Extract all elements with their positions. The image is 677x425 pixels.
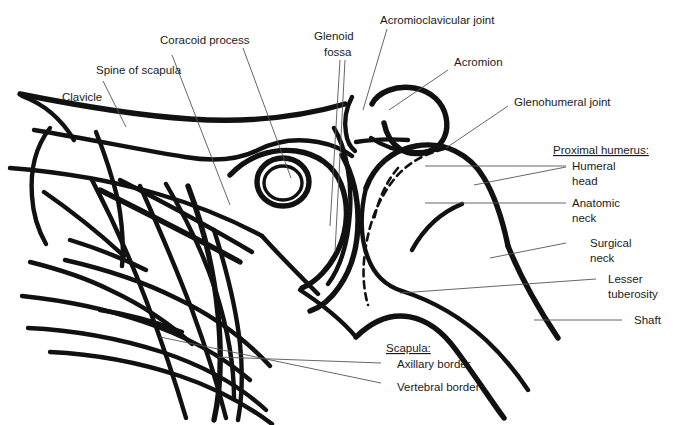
lesser-tuberosity-ridge [412, 204, 462, 250]
bone-outlines [10, 87, 558, 424]
label-glenohumeral-joint: Glenohumeral joint [514, 96, 611, 108]
leader-surgical-neck [490, 243, 566, 258]
label-lesser-tuberosity-line1: Lesser [608, 273, 643, 285]
label-shaft: Shaft [634, 314, 662, 326]
leader-vertebral-border [160, 337, 381, 383]
thoracic-outline-left-curve [32, 128, 50, 244]
label-scapula-heading: Scapula: [386, 342, 431, 354]
humeral-medial-shaft [402, 291, 528, 390]
label-anatomic-neck-line2: neck [572, 212, 597, 224]
scapula-body-lateral-sweep [262, 236, 318, 294]
ac-joint-lateral-clavicle [345, 97, 355, 151]
acromion-spine-continuation [356, 139, 408, 142]
label-clavicle: Clavicle [62, 91, 102, 103]
label-spine-of-scapula: Spine of scapula [96, 64, 182, 76]
label-acromioclavicular-joint: Acromioclavicular joint [380, 14, 495, 26]
label-coracoid-process: Coracoid process [160, 34, 250, 46]
label-proximal-humerus-heading: Proximal humerus: [553, 144, 649, 156]
diagram-canvas: Clavicle Spine of scapula Coracoid proce… [0, 0, 677, 425]
label-axillary-border: Axillary border [397, 358, 471, 370]
leader-glenoid-fossa-a [330, 60, 340, 226]
label-vertebral-border: Vertebral border [397, 381, 480, 393]
label-glenoid-fossa-line2: fossa [324, 46, 352, 58]
anatomy-diagram: Clavicle Spine of scapula Coracoid proce… [0, 0, 677, 425]
scapula-superior-border [10, 168, 262, 236]
label-humeral-head-line2: head [572, 175, 598, 187]
label-acromion: Acromion [454, 56, 503, 68]
label-humeral-head-line1: Humeral [572, 160, 615, 172]
leader-humeral-head-2 [474, 167, 566, 185]
leader-lesser-tuberosity [400, 279, 596, 293]
coracoid-process-inner-ring [264, 166, 302, 200]
label-lesser-tuberosity-line2: tuberosity [608, 288, 658, 300]
label-anatomic-neck-line1: Anatomic [572, 197, 620, 209]
leader-glenohumeral-joint [446, 106, 508, 148]
label-surgical-neck-line2: neck [590, 252, 615, 264]
leader-spine-of-scapula [172, 55, 230, 205]
articular-margin-dashed [374, 168, 398, 220]
rib-posterior-arc-1 [92, 180, 186, 418]
label-glenoid-fossa-line1: Glenoid [314, 30, 354, 42]
humeral-head-dome [366, 145, 508, 246]
leader-clavicle [103, 81, 126, 127]
humeral-shaft-lateral [508, 246, 558, 338]
label-surgical-neck-line1: Surgical [590, 237, 632, 249]
